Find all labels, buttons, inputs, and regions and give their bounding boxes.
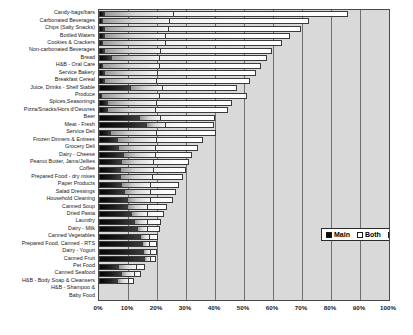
bar-segment-both <box>141 234 150 240</box>
bar-segment-promo <box>148 211 164 217</box>
bar-row <box>99 167 186 173</box>
bar-segment-main <box>99 167 121 173</box>
y-axis-label: Salad Dressings <box>0 188 95 194</box>
bar-segment-both <box>105 70 159 76</box>
bar-segment-both <box>135 219 148 225</box>
bar-row <box>99 85 237 91</box>
bar-segment-both <box>128 204 148 210</box>
y-axis-label: Spices,Seasonings <box>0 98 95 104</box>
bar-segment-both <box>103 40 165 46</box>
y-axis-category-labels: Candy-bags/barsCarbonated BeveragesChips… <box>0 9 95 301</box>
bar-segment-main <box>99 152 124 158</box>
bar-segment-promo <box>157 100 232 106</box>
bar-segment-main <box>99 85 131 91</box>
plot-area: Main Both Promo <box>98 9 390 301</box>
bar-row <box>99 40 282 46</box>
bar-row <box>99 241 157 247</box>
y-axis-label: Dairy - Cheese <box>0 151 95 157</box>
bar-segment-promo <box>166 33 291 39</box>
bar-segment-main <box>99 137 118 143</box>
bar-row <box>99 204 167 210</box>
bar-row <box>99 249 157 255</box>
y-axis-label: Prepared Food, Canned - RTS <box>0 240 95 246</box>
bar-segment-both <box>138 226 148 232</box>
bar-segment-both <box>103 18 170 24</box>
bar-segment-both <box>108 100 157 106</box>
x-axis-tick-40: 40% <box>208 303 220 312</box>
bar-segment-both <box>119 145 155 151</box>
bar-segment-both <box>105 48 162 54</box>
bar-segment-both <box>105 78 157 84</box>
bar-segment-both <box>105 33 166 39</box>
bar-segment-both <box>125 189 151 195</box>
bar-segment-promo <box>151 249 157 255</box>
bar-segment-main <box>99 107 108 113</box>
x-axis-tick-80: 80% <box>324 303 336 312</box>
y-axis-label: H&B - Body Soap & Cleansers <box>0 277 95 283</box>
bar-segment-promo <box>163 85 237 91</box>
y-axis-label: Coffee <box>0 165 95 171</box>
bar-segment-promo <box>154 167 186 173</box>
bar-row <box>99 122 214 128</box>
y-axis-label: Breakfast Cereal <box>0 76 95 82</box>
gridline-100 <box>389 10 390 300</box>
bar-row <box>99 26 301 32</box>
bar-segment-both <box>140 115 162 121</box>
bar-segment-both <box>108 107 156 113</box>
stacked-bar-chart: Candy-bags/barsCarbonated BeveragesChips… <box>0 0 413 335</box>
bar-segment-main <box>99 234 141 240</box>
bar-row <box>99 137 203 143</box>
bar-row <box>99 63 261 69</box>
bar-segment-promo <box>129 278 133 284</box>
bar-segment-main <box>99 241 143 247</box>
bar-segment-both <box>124 152 156 158</box>
bar-segment-promo <box>166 40 282 46</box>
bar-segment-promo <box>161 48 271 54</box>
bar-row <box>99 93 247 99</box>
bar-segment-promo <box>154 159 189 165</box>
bar-segment-promo <box>137 264 146 270</box>
y-axis-label: Juice, Drinks - Shelf Stable <box>0 84 95 90</box>
bar-row <box>99 145 198 151</box>
bar-segment-both <box>112 55 160 61</box>
bar-segment-main <box>99 197 128 203</box>
bar-row <box>99 55 267 61</box>
bar-segment-both <box>143 241 150 247</box>
bar-segment-both <box>121 167 154 173</box>
bar-segment-both <box>132 211 148 217</box>
bar-row <box>99 159 189 165</box>
bar-segment-both <box>122 159 154 165</box>
y-axis-label: Pizza/Snacks/Hors d'Oeuvres <box>0 106 95 112</box>
legend-swatch-main-icon <box>326 232 332 238</box>
bar-segment-main <box>99 249 144 255</box>
bar-segment-main <box>99 182 122 188</box>
bar-segment-promo <box>148 219 161 225</box>
bar-segment-promo <box>160 55 267 61</box>
bar-segment-both <box>103 63 160 69</box>
legend-swatch-both-icon <box>357 232 363 238</box>
bar-row <box>99 130 216 136</box>
legend-item-promo: Promo <box>388 231 390 238</box>
x-axis-tick-60: 60% <box>266 303 278 312</box>
bar-segment-both <box>131 85 163 91</box>
legend-item-main: Main <box>326 231 350 238</box>
bar-segment-both <box>118 278 130 284</box>
bar-segment-promo <box>148 204 167 210</box>
bar-row <box>99 115 215 121</box>
bar-row <box>99 33 290 39</box>
bar-segment-promo <box>148 226 160 232</box>
bar-segment-both <box>147 122 166 128</box>
y-axis-label: Carbonated Beverages <box>0 17 95 23</box>
bar-segment-promo <box>156 145 198 151</box>
bar-segment-main <box>99 189 125 195</box>
bar-segment-main <box>99 122 147 128</box>
bar-segment-both <box>128 197 151 203</box>
y-axis-label: Canned Fruit <box>0 255 95 261</box>
bar-segment-promo <box>156 152 192 158</box>
bar-rows <box>99 10 389 300</box>
bar-row <box>99 256 156 262</box>
bar-segment-promo <box>161 115 215 121</box>
bar-segment-promo <box>160 93 247 99</box>
x-axis-tick-10: 10% <box>121 303 133 312</box>
y-axis-label: H&B - Shampoo & <box>0 284 95 290</box>
